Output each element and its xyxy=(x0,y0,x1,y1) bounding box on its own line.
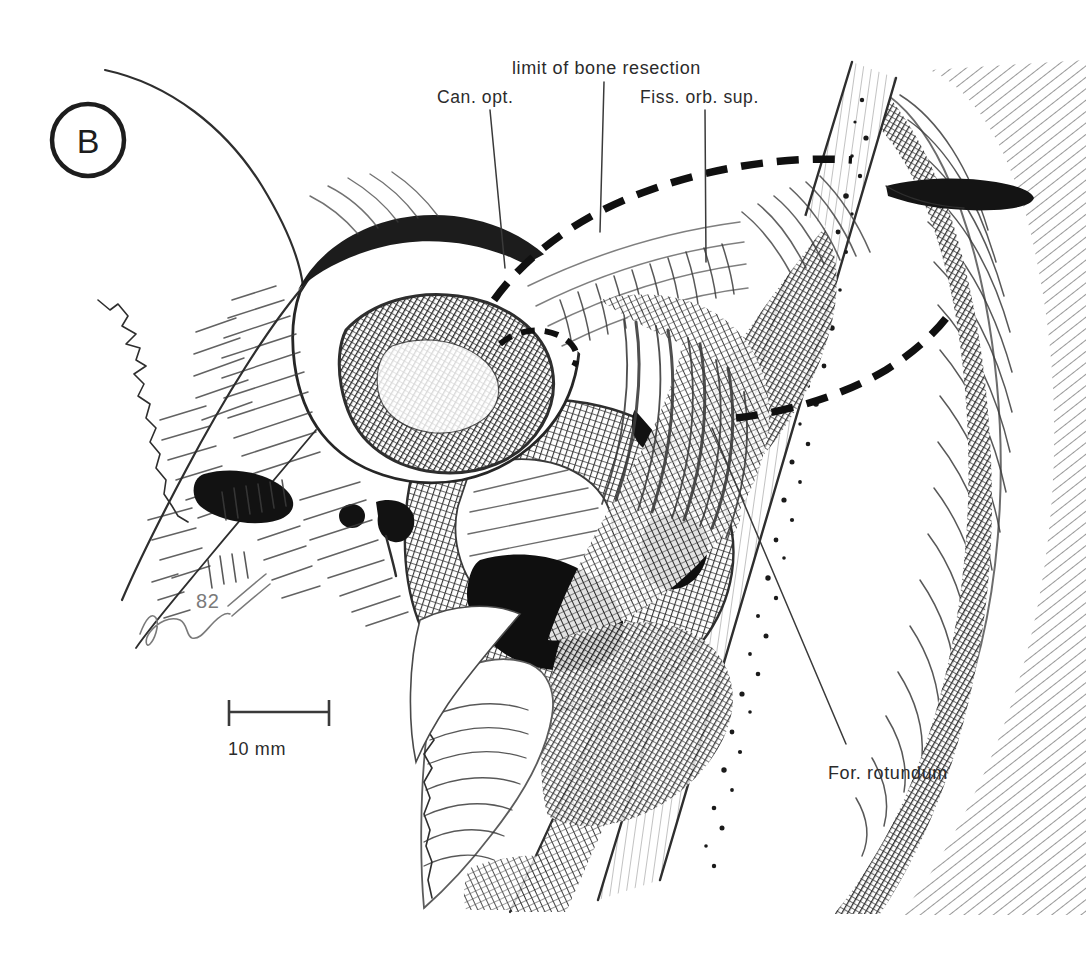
label-fiss-orb-sup: Fiss. orb. sup. xyxy=(640,87,759,107)
label-limit-of-bone-resection: limit of bone resection xyxy=(512,58,701,78)
anatomical-illustration: B Can. opt. limit of bone resection Fiss… xyxy=(0,0,1086,959)
panel-letter-text: B xyxy=(77,122,100,160)
scale-bar-label: 10 mm xyxy=(228,739,286,759)
leader-fiss-orb-sup xyxy=(705,110,706,262)
signature-year: 82 xyxy=(196,590,219,612)
label-can-opt: Can. opt. xyxy=(437,87,513,107)
label-for-rotundum: For. rotundum xyxy=(828,763,948,783)
figure-panel: B Can. opt. limit of bone resection Fiss… xyxy=(0,0,1086,959)
